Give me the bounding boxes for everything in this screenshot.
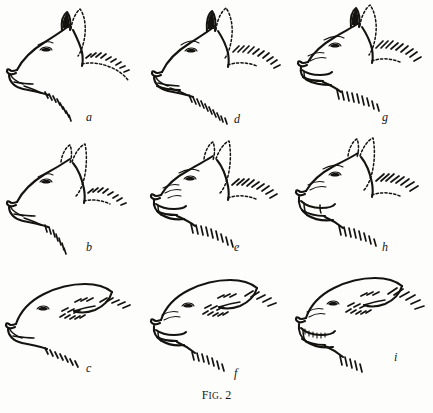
throat-hackles-a	[45, 92, 71, 121]
dog-head-f	[145, 268, 290, 390]
dog-head-i	[290, 268, 433, 390]
panel-label-g: g	[382, 110, 388, 125]
panel-i: i	[290, 268, 433, 390]
neck-hackles-g	[376, 41, 421, 61]
throat-hackles-f	[192, 352, 224, 371]
panel-label-i: i	[394, 350, 397, 365]
dog-head-c	[0, 268, 145, 390]
flattened-ear-hair-i	[346, 292, 379, 314]
dog-head-h	[290, 135, 433, 268]
panel-e: e	[145, 135, 290, 268]
flattened-ear-hair-f	[203, 294, 236, 316]
throat-hackles-b	[45, 225, 66, 254]
dog-head-g	[290, 0, 433, 135]
neck-hackles-d	[233, 46, 280, 68]
throat-hackles-e	[191, 224, 233, 247]
caption-small-caps: IG	[208, 391, 219, 401]
throat-hackles-d	[189, 95, 227, 124]
throat-hackles-c	[45, 348, 78, 367]
panel-grid: a	[0, 0, 433, 390]
panel-label-f: f	[234, 366, 237, 381]
panel-label-e: e	[234, 240, 239, 255]
panel-h: h	[290, 135, 433, 268]
panel-f: f	[145, 268, 290, 390]
panel-label-h: h	[382, 240, 388, 255]
panel-label-b: b	[86, 240, 92, 255]
throat-hackles-i	[340, 356, 362, 372]
panel-d: d	[145, 0, 290, 135]
figure-plate: a	[0, 0, 433, 413]
flattened-ear-hair-c	[60, 298, 93, 319]
dog-head-a	[0, 0, 145, 135]
dog-head-e	[145, 135, 290, 268]
figure-caption: FIG. 2	[0, 388, 433, 403]
panel-label-c: c	[86, 361, 91, 376]
throat-hackles-h	[339, 226, 376, 246]
panel-c: c	[0, 268, 145, 390]
panel-a: a	[0, 0, 145, 135]
panel-g: g	[290, 0, 433, 135]
panel-b: b	[0, 135, 145, 268]
neck-hackles-h	[376, 174, 418, 191]
throat-hackles-g	[337, 90, 379, 111]
dog-head-d	[145, 0, 290, 135]
panel-label-a: a	[86, 110, 92, 125]
panel-label-d: d	[234, 112, 240, 127]
caption-number: . 2	[219, 388, 231, 402]
dog-head-b	[0, 135, 145, 268]
